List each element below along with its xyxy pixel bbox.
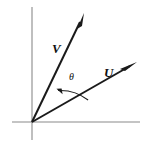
vector-v-label: V [52,41,62,56]
vector-u-arrowhead [120,62,137,71]
vector-u-label: U [104,65,114,80]
angle-arc-arrowhead [56,89,62,95]
coordinate-axes [12,7,140,140]
vector-diagram-figure: V U θ [0,0,152,148]
vector-u-shaft [32,66,130,122]
vector-v [32,13,84,122]
vector-u [32,62,137,122]
vector-diagram-canvas: V U θ [0,0,152,148]
vector-v-arrowhead [77,13,84,29]
angle-theta-label: θ [69,71,74,82]
